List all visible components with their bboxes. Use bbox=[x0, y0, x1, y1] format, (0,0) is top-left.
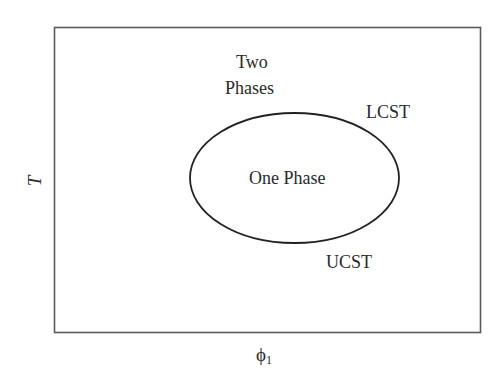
two-phases-label-line1: Two bbox=[236, 53, 268, 71]
x-axis-label: ϕ1 bbox=[256, 344, 272, 368]
x-axis-subscript: 1 bbox=[266, 353, 272, 367]
y-axis-label: T bbox=[24, 173, 46, 189]
ucst-label: UCST bbox=[326, 253, 372, 271]
one-phase-label: One Phase bbox=[249, 169, 325, 187]
lcst-label: LCST bbox=[366, 103, 410, 121]
x-axis-symbol: ϕ bbox=[256, 344, 266, 365]
two-phases-label-line2: Phases bbox=[225, 79, 274, 97]
